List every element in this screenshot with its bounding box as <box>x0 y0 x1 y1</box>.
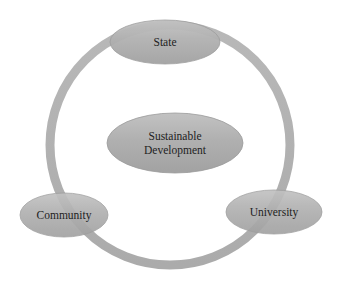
node-community: Community <box>20 193 108 237</box>
node-university: University <box>226 190 322 234</box>
center-label-line1: Sustainable <box>148 130 201 142</box>
node-community-label: Community <box>37 209 92 222</box>
center-label-line2: Development <box>144 144 207 157</box>
node-university-label: University <box>250 206 299 219</box>
center-node-sustainable-development: Sustainable Development <box>107 113 243 173</box>
node-state-label: State <box>154 36 177 48</box>
node-state: State <box>110 20 220 64</box>
cycle-diagram: Sustainable Development State Community … <box>0 0 340 290</box>
